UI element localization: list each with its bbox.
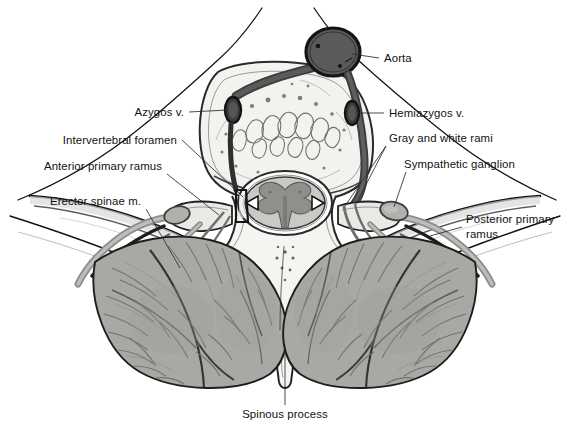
label-azygos-v: Azygos v.: [135, 106, 184, 118]
label-aorta: Aorta: [384, 52, 412, 64]
label-posterior-primary-ramus-line1: Posterior primary: [466, 213, 555, 225]
label-anterior-primary-ramus: Anterior primary ramus: [44, 160, 162, 172]
label-posterior-primary-ramus-line2: ramus: [466, 228, 498, 240]
label-gray-and-white-rami: Gray and white rami: [389, 132, 493, 144]
label-sympathetic-ganglion: Sympathetic ganglion: [404, 158, 515, 170]
label-intervertebral-foramen: Intervertebral foramen: [63, 134, 177, 146]
aorta-lumen: [306, 28, 360, 76]
hemiazygos-vein: [345, 101, 359, 125]
cross-section-svg: AortaAzygos v.Hemiazygos v.Intervertebra…: [0, 0, 570, 440]
label-erector-spinae-m: Erector spinae m.: [50, 195, 141, 207]
label-hemiazygos-v: Hemiazygos v.: [389, 107, 464, 119]
label-spinous-process: Spinous process: [242, 408, 328, 420]
anatomical-figure: AortaAzygos v.Hemiazygos v.Intervertebra…: [0, 0, 570, 440]
